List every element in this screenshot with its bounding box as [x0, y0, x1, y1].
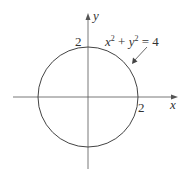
y-axis-label: y: [91, 8, 99, 23]
x-axis-label: x: [169, 97, 176, 112]
equation-pointer-line: [134, 47, 147, 61]
circle-diagram: y x 2 2 x2 + y2 = 4: [0, 0, 186, 178]
equation-label: x2 + y2 = 4: [104, 34, 159, 49]
y-axis-arrow-icon: [86, 13, 91, 20]
y-intercept-label: 2: [75, 34, 82, 49]
x-intercept-label: 2: [138, 100, 145, 115]
